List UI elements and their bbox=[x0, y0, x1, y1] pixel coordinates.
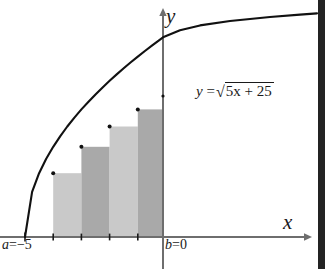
lower-bound-label: a=−5 bbox=[2, 238, 32, 252]
plot-canvas bbox=[0, 0, 325, 269]
riemann-rect-5 bbox=[138, 109, 163, 237]
axis-label-x: x bbox=[283, 212, 292, 233]
sample-point--2 bbox=[108, 125, 112, 129]
riemann-rect-4 bbox=[110, 127, 138, 238]
lower-bound-variable: a bbox=[2, 237, 9, 252]
square-root-expression: √5x + 25 bbox=[215, 82, 274, 99]
riemann-rect-2 bbox=[53, 173, 81, 237]
riemann-sum-figure: y x a=−5 b=0 y =√5x + 25 bbox=[0, 0, 325, 269]
radicand: 5x + 25 bbox=[225, 82, 274, 99]
sample-point--4 bbox=[51, 171, 55, 175]
riemann-rect-3 bbox=[81, 147, 109, 237]
upper-bound-label: b=0 bbox=[165, 238, 187, 252]
sample-point--1 bbox=[136, 107, 140, 111]
lower-bound-equals: = bbox=[9, 237, 17, 252]
equation-equals: = bbox=[206, 83, 214, 99]
sample-point--3 bbox=[79, 145, 83, 149]
axis-label-y: y bbox=[166, 6, 175, 27]
lower-bound-value: −5 bbox=[17, 237, 32, 252]
riemann-rectangles bbox=[25, 109, 163, 237]
upper-bound-equals: = bbox=[172, 237, 180, 252]
page-edge-band bbox=[318, 0, 325, 269]
equation-lhs: y bbox=[196, 83, 203, 99]
radical-sign-icon: √ bbox=[216, 84, 225, 100]
sample-point-0 bbox=[161, 94, 164, 97]
curve-equation-label: y =√5x + 25 bbox=[196, 82, 274, 99]
upper-bound-value: 0 bbox=[180, 237, 187, 252]
upper-bound-variable: b bbox=[165, 237, 172, 252]
